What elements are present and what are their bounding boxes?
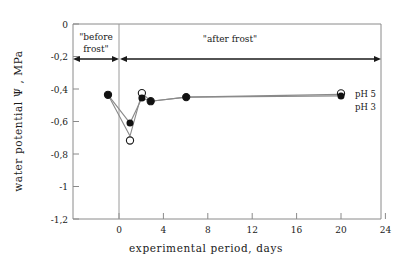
after-frost-label: "after frost" xyxy=(203,34,257,44)
y-axis-ticks xyxy=(73,24,79,219)
data-point-ph3 xyxy=(126,137,133,144)
y-tick-label-2: -0,4 xyxy=(51,85,69,95)
x-tick-label-12: 12 xyxy=(246,225,257,235)
x-tick-label-8: 8 xyxy=(205,225,211,235)
x-tick-label-4: 4 xyxy=(161,225,167,235)
y-axis-title: water potential Ψ , MPa xyxy=(12,50,24,191)
y-tick-label-0: 0 xyxy=(62,20,68,30)
before-frost-label-line2: frost" xyxy=(83,44,108,54)
x-tick-label-24: 24 xyxy=(380,225,392,235)
annotation-labels: "before frost" "after frost" xyxy=(79,32,257,54)
data-point-ph5 xyxy=(338,92,345,99)
data-point-ph5 xyxy=(147,98,154,105)
x-tick-label-20: 20 xyxy=(335,225,347,235)
x-axis-ticks xyxy=(119,213,385,219)
water-potential-chart: 0 -0,2 -0,4 -0,6 -0,8 -1 -1,2 0 4 8 12 1… xyxy=(0,0,406,276)
figure-container: 0 -0,2 -0,4 -0,6 -0,8 -1 -1,2 0 4 8 12 1… xyxy=(0,0,406,276)
legend: pH 5 pH 3 xyxy=(355,89,376,112)
legend-label-ph5: pH 5 xyxy=(355,89,376,99)
x-tick-label-16: 16 xyxy=(291,225,303,235)
data-point-ph5 xyxy=(183,94,190,101)
y-tick-label-3: -0,6 xyxy=(51,117,69,127)
before-frost-label-line1: "before xyxy=(79,32,113,42)
x-tick-labels: 0 4 8 12 16 20 24 xyxy=(116,225,391,235)
y-tick-label-1: -0,2 xyxy=(51,52,68,62)
legend-label-ph3: pH 3 xyxy=(355,102,376,112)
data-point-ph5 xyxy=(105,91,112,98)
data-point-ph5 xyxy=(127,120,134,127)
arrow-head-right-after xyxy=(374,56,381,62)
x-tick-label-0: 0 xyxy=(116,225,122,235)
y-tick-label-4: -0,8 xyxy=(51,150,69,160)
data-point-ph5 xyxy=(138,95,145,102)
x-axis-title: experimental period, days xyxy=(129,242,283,254)
y-tick-labels: 0 -0,2 -0,4 -0,6 -0,8 -1 -1,2 xyxy=(51,20,69,225)
arrow-head-left-after xyxy=(120,56,127,62)
arrow-head-right-before xyxy=(112,56,119,62)
y-tick-label-6: -1,2 xyxy=(51,215,68,225)
y-tick-label-5: -1 xyxy=(59,182,68,192)
